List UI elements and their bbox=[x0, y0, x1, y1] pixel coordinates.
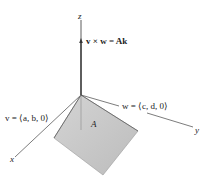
y-axis-ext bbox=[147, 113, 193, 127]
area-label: A bbox=[91, 120, 97, 129]
cross-product-arrowhead bbox=[79, 38, 83, 43]
cross-product-label: v × w = Ak bbox=[86, 37, 127, 46]
vector-v-label: v = ⟨a, b, 0⟩ bbox=[5, 114, 49, 123]
y-axis-label: y bbox=[195, 126, 199, 135]
vector-w-label: w = ⟨c, d, 0⟩ bbox=[122, 102, 168, 111]
diagram-canvas bbox=[0, 0, 210, 180]
x-axis-label: x bbox=[10, 155, 14, 164]
z-axis-label: z bbox=[78, 12, 82, 21]
